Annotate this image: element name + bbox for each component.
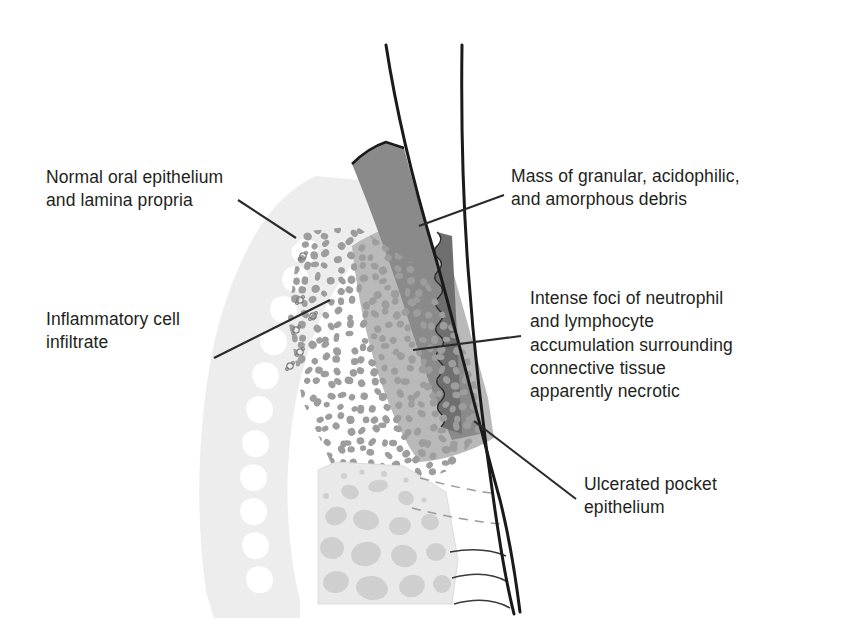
- leader-debris-mass: [419, 195, 504, 226]
- figure-canvas: Normal oral epithelium and lamina propri…: [0, 0, 843, 628]
- alveolar-bone: [318, 462, 458, 604]
- label-inflammatory-cell-infiltrate: Inflammatory cell infiltrate: [46, 308, 180, 355]
- label-normal-oral-epithelium: Normal oral epithelium and lamina propri…: [46, 166, 223, 213]
- label-ulcerated-pocket-epithelium: Ulcerated pocket epithelium: [584, 473, 717, 520]
- label-mass-of-debris: Mass of granular, acidophilic, and amorp…: [511, 165, 740, 212]
- label-intense-foci: Intense foci of neutrophil and lymphocyt…: [530, 287, 733, 403]
